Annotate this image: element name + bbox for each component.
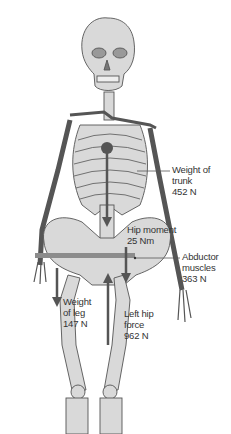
- label-hip-force: Left hip force 962 N: [124, 308, 154, 341]
- label-trunk-weight: Weight of trunk 452 N: [172, 164, 210, 197]
- pelvis-lever-bar: [35, 253, 135, 258]
- label-abductor: Abductor muscles 363 N: [182, 251, 218, 284]
- skeleton-illustration: [0, 0, 231, 434]
- label-hip-moment: Hip moment 25 Nm: [127, 224, 176, 246]
- label-leg-weight: Weight of leg 147 N: [63, 296, 91, 329]
